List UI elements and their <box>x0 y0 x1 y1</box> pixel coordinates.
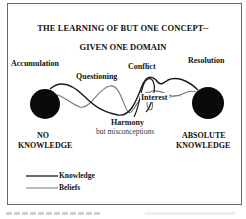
beliefs-curve <box>52 86 196 113</box>
cropped-caption-fragment <box>6 212 102 215</box>
learning-curves <box>0 0 246 219</box>
no-knowledge-node <box>30 89 60 119</box>
stage-conflict-label: Conflict <box>128 62 156 71</box>
absolute-knowledge-label-line1: ABSOLUTE <box>182 131 226 140</box>
stage-harmony-label: Harmony <box>111 118 144 127</box>
absolute-knowledge-node <box>192 87 224 119</box>
stage-resolution-label: Resolution <box>188 56 224 65</box>
stage-harmony-note: but misconceptions <box>96 127 154 136</box>
legend-knowledge-label: Knowledge <box>59 171 95 180</box>
absolute-knowledge-label-line2: KNOWLEDGE <box>176 141 230 150</box>
stage-interest-label: Interest <box>140 93 169 102</box>
cropped-caption-fragment-right <box>145 212 235 215</box>
stage-accumulation-label: Accumulation <box>11 59 59 68</box>
stage-questioning-label: Questioning <box>76 72 117 81</box>
legend-beliefs-label: Beliefs <box>59 183 80 192</box>
no-knowledge-label-line2: KNOWLEDGE <box>18 141 72 150</box>
no-knowledge-label-line1: NO <box>37 131 49 140</box>
